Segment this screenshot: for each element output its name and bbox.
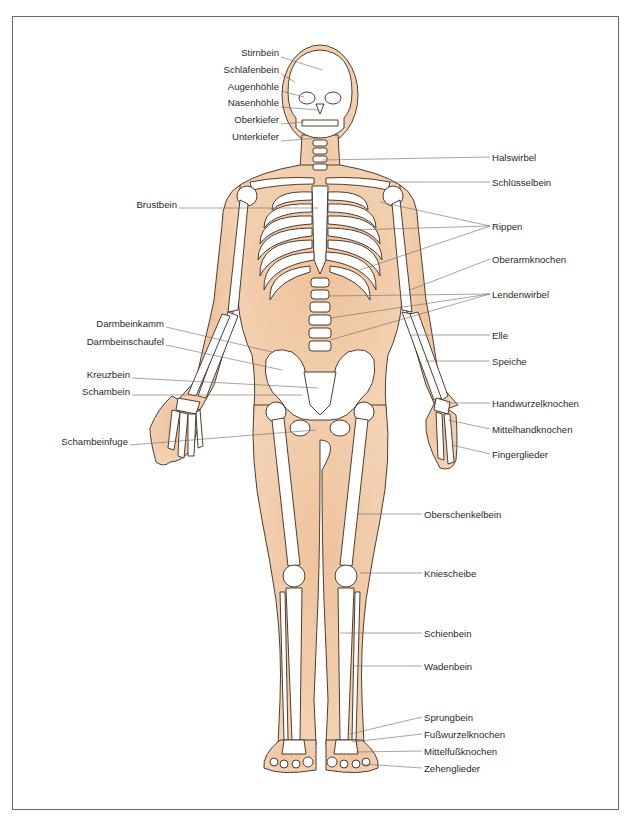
label-oberkiefer: Oberkiefer <box>234 114 279 125</box>
label-wadenbein: Wadenbein <box>424 661 472 672</box>
label-kreuzbein: Kreuzbein <box>87 369 130 380</box>
label-schluesselbein: Schlüsselbein <box>492 177 551 188</box>
label-oberarmknochen: Oberarmknochen <box>492 254 566 265</box>
label-rippen: Rippen <box>492 221 522 232</box>
label-brustbein: Brustbein <box>136 199 177 210</box>
label-fusswurzelknochen: Fußwurzelknochen <box>424 729 505 740</box>
skeleton-figure <box>0 0 635 827</box>
label-stirnbein: Stirnbein <box>241 47 279 58</box>
label-speiche: Speiche <box>492 356 527 367</box>
label-handwurzelknochen: Handwurzelknochen <box>492 398 579 409</box>
label-schlaefenbein: Schläfenbein <box>224 64 279 75</box>
label-mittelhandknochen: Mittelhandknochen <box>492 424 573 435</box>
label-darmbeinschaufel: Darmbeinschaufel <box>87 336 164 347</box>
label-elle: Elle <box>492 330 508 341</box>
label-schambein: Schambein <box>82 386 130 397</box>
label-schienbein: Schienbein <box>424 628 471 639</box>
label-unterkiefer: Unterkiefer <box>232 131 279 142</box>
label-fingerglieder: Fingerglieder <box>492 449 548 460</box>
label-sprungbein: Sprungbein <box>424 712 473 723</box>
label-augenhoehle: Augenhöhle <box>228 81 279 92</box>
label-halswirbel: Halswirbel <box>492 152 536 163</box>
label-oberschenkelbein: Oberschenkelbein <box>424 509 501 520</box>
label-darmbeinkamm: Darmbeinkamm <box>96 318 164 329</box>
label-zehenglieder: Zehenglieder <box>424 763 480 774</box>
label-lendenwirbel: Lendenwirbel <box>492 289 549 300</box>
label-kniescheibe: Kniescheibe <box>424 568 476 579</box>
label-schambeinfuge: Schambeinfuge <box>61 436 128 447</box>
label-nasenhoehle: Nasenhöhle <box>228 97 279 108</box>
label-mittelfussknochen: Mittelfußknochen <box>424 746 497 757</box>
